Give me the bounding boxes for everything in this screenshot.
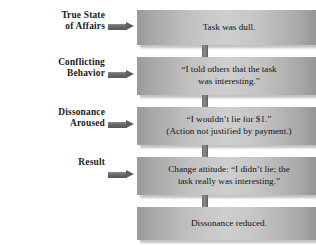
stage-box-text: Dissonance reduced. (191, 218, 267, 230)
arrow-icon (108, 70, 134, 79)
stage-box-wrap: Dissonance reduced. (137, 207, 316, 240)
arrow-shaft (108, 72, 127, 78)
stage-box-dissonance-reduced: Dissonance reduced. (137, 207, 316, 240)
stage-box-text: Task was dull. (203, 22, 256, 34)
arrow-shaft (108, 24, 127, 30)
stage-box-dissonance-aroused: “I wouldn’t lie for $1.” (Action not jus… (137, 107, 316, 145)
stage-label-conflicting-behavior: Conflicting Behavior (0, 57, 108, 80)
connector-tab (202, 145, 208, 157)
arrow-head (126, 22, 134, 30)
stage-label-text: Result (78, 157, 108, 168)
stage-box-text: “I told others that the task was interes… (181, 64, 276, 87)
stage-label-result: Result (0, 157, 108, 168)
cognitive-dissonance-diagram: True State of Affairs Task was dull. Con… (0, 0, 316, 246)
stage-label-true-state: True State of Affairs (0, 10, 108, 33)
arrow-head (126, 120, 134, 128)
stage-box-wrap: Task was dull. (137, 10, 316, 45)
stage-label-text: Conflicting Behavior (58, 57, 108, 80)
stage-box-wrap: Change attitude: “I didn’t lie; the task… (137, 157, 316, 195)
stage-box-true-state: Task was dull. (137, 10, 316, 45)
arrow-head (126, 170, 134, 178)
diagram-row: Conflicting Behavior “I told others that… (0, 57, 316, 95)
arrow-shaft (108, 172, 127, 178)
arrow-head (126, 70, 134, 78)
connector-tab (202, 95, 208, 107)
connector-tab (202, 195, 208, 207)
stage-box-text: “I wouldn’t lie for $1.” (Action not jus… (166, 114, 291, 137)
stage-box-result: Change attitude: “I didn’t lie; the task… (137, 157, 316, 195)
diagram-row: Dissonance reduced. (0, 207, 316, 240)
diagram-row: Dissonance Aroused “I wouldn’t lie for $… (0, 107, 316, 145)
arrow-icon (108, 120, 134, 129)
arrow-icon (108, 170, 134, 179)
arrow-icon (108, 22, 134, 31)
arrow-shaft (108, 122, 127, 128)
stage-label-text: True State of Affairs (61, 10, 108, 33)
stage-box-text: Change attitude: “I didn’t lie; the task… (168, 164, 290, 187)
diagram-row: Result Change attitude: “I didn’t lie; t… (0, 157, 316, 195)
stage-box-conflicting-behavior: “I told others that the task was interes… (137, 57, 316, 95)
connector-tab (202, 45, 208, 57)
stage-box-wrap: “I wouldn’t lie for $1.” (Action not jus… (137, 107, 316, 145)
stage-box-wrap: “I told others that the task was interes… (137, 57, 316, 95)
stage-label-dissonance-aroused: Dissonance Aroused (0, 107, 108, 130)
stage-label-text: Dissonance Aroused (58, 107, 108, 130)
diagram-row: True State of Affairs Task was dull. (0, 10, 316, 45)
